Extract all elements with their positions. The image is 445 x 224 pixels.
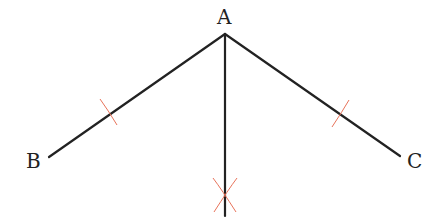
segment-ab	[49, 34, 225, 157]
label-a: A	[216, 5, 232, 29]
label-b: B	[26, 149, 41, 173]
label-c: C	[407, 149, 422, 173]
angle-bisector-diagram: A B C	[0, 0, 445, 224]
segment-ac	[225, 34, 400, 156]
arc-mark-ac	[332, 100, 349, 127]
